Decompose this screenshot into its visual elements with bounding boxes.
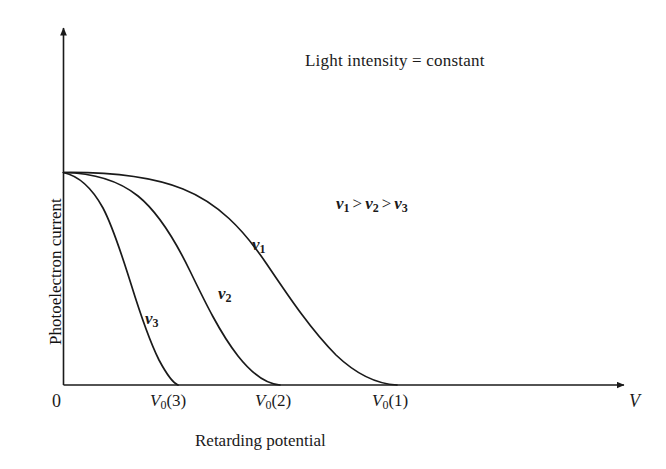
greater-than-2: > (379, 194, 395, 213)
curve-nu1-symbol: ν (252, 235, 260, 254)
nu-symbol-3: ν (394, 194, 402, 213)
curve-nu3-symbol: ν (145, 309, 153, 328)
nu-symbol-1: ν (336, 194, 344, 213)
nu-sub-3: 3 (402, 201, 408, 215)
photoelectric-effect-figure: Light intensity = constant ν1>ν2>ν3 ν1 ν… (0, 0, 666, 469)
nu-sub-1: 1 (344, 201, 350, 215)
curve-nu2 (64, 173, 281, 386)
curve-label-nu3: ν3 (145, 310, 159, 329)
curve-nu1-sub: 1 (260, 242, 266, 256)
v0-2-paren: (2) (271, 391, 291, 410)
curve-nu2-symbol: ν (218, 284, 226, 303)
greater-than-1: > (350, 194, 366, 213)
x-tick-label-v0-2: V0(2) (255, 392, 291, 411)
curve-nu3-sub: 3 (153, 316, 159, 330)
v0-2-symbol: V (255, 391, 265, 410)
curve-label-nu1: ν1 (252, 236, 266, 255)
nu-sub-2: 2 (373, 201, 379, 215)
curve-label-nu2: ν2 (218, 285, 232, 304)
curve-nu3 (64, 173, 179, 386)
x-axis-symbol: V (629, 392, 640, 410)
nu-symbol-2: ν (365, 194, 373, 213)
frequency-order-annotation: ν1>ν2>ν3 (336, 195, 408, 214)
origin-tick-label: 0 (52, 392, 61, 410)
x-tick-label-v0-3: V0(3) (150, 392, 186, 411)
intensity-annotation: Light intensity = constant (305, 52, 485, 69)
curve-nu2-sub: 2 (226, 291, 232, 305)
x-axis-title: Retarding potential (195, 432, 326, 449)
v0-1-paren: (1) (388, 391, 408, 410)
v0-1-symbol: V (372, 391, 382, 410)
v0-3-symbol: V (150, 391, 160, 410)
plot-canvas (0, 0, 666, 469)
v0-3-paren: (3) (166, 391, 186, 410)
y-axis-title: Photoelectron current (46, 198, 66, 345)
x-tick-label-v0-1: V0(1) (372, 392, 408, 411)
